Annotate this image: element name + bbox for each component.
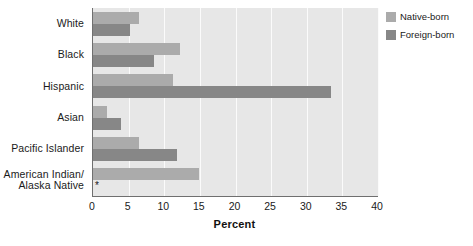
x-tick-label: 20: [229, 200, 241, 212]
legend-item: Native-born: [386, 11, 472, 22]
x-tick-label: 0: [89, 200, 95, 212]
bar-foreign-born: [93, 24, 130, 36]
gridline: [236, 8, 237, 196]
bar-native-born: [93, 12, 139, 24]
category-label: Asian: [57, 112, 84, 124]
bar-foreign-born: [93, 86, 331, 98]
category-label: Hispanic: [43, 81, 84, 93]
x-tick-label: 10: [157, 200, 169, 212]
category-label: Black: [58, 49, 84, 61]
x-axis-tick-labels: 0510152025303540: [92, 200, 377, 216]
plot-area: *: [92, 8, 378, 197]
gridline: [307, 8, 308, 196]
bar-native-born: [93, 137, 139, 149]
bar-native-born: [93, 106, 107, 118]
x-tick-label: 35: [336, 200, 348, 212]
gridline: [342, 8, 343, 196]
x-tick-label: 30: [300, 200, 312, 212]
gridline: [378, 8, 379, 196]
category-axis-labels: WhiteBlackHispanicAsianPacific IslanderA…: [0, 8, 88, 196]
bar-foreign-born: [93, 118, 121, 130]
suppressed-value-marker: *: [95, 181, 99, 191]
category-label: American Indian/ Alaska Native: [4, 169, 84, 192]
gridline: [200, 8, 201, 196]
x-tick-label: 15: [193, 200, 205, 212]
bar-native-born: [93, 168, 199, 180]
bar-chart: WhiteBlackHispanicAsianPacific IslanderA…: [0, 0, 473, 246]
category-label: White: [57, 18, 84, 30]
bar-foreign-born: [93, 149, 177, 161]
legend-color-swatch: [386, 12, 396, 22]
x-axis-title: Percent: [92, 218, 377, 230]
chart-legend: Native-bornForeign-born: [386, 11, 472, 47]
gridline: [271, 8, 272, 196]
x-tick-label: 25: [264, 200, 276, 212]
bar-native-born: [93, 74, 173, 86]
category-label: Pacific Islander: [11, 143, 84, 155]
legend-label: Native-born: [400, 11, 449, 22]
legend-item: Foreign-born: [386, 29, 472, 40]
bar-foreign-born: [93, 55, 154, 67]
legend-color-swatch: [386, 30, 396, 40]
x-tick-label: 40: [371, 200, 383, 212]
legend-label: Foreign-born: [400, 29, 454, 40]
bar-native-born: [93, 43, 180, 55]
x-tick-label: 5: [125, 200, 131, 212]
